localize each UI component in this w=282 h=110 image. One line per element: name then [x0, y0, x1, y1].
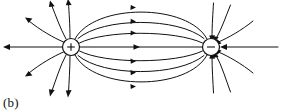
- figure-panel: (b): [0, 0, 282, 110]
- arrowhead-lower-1: [131, 59, 137, 64]
- field-line-pos-lower-left-steep: [52, 55, 67, 92]
- arrowhead-pos-upper-left-steep: [49, 1, 55, 8]
- arrowhead-upper-3: [130, 5, 136, 10]
- negative-charge-marker: [203, 39, 220, 56]
- field-line-neg-lower-right-diagonal: [219, 52, 254, 73]
- field-line-neg-upper-right-diagonal: [219, 21, 254, 42]
- field-line-upper-3: [75, 12, 207, 39]
- arrowhead-pos-lower-vertical: [66, 90, 72, 98]
- field-line-neg-upper-vertical: [212, 3, 214, 38]
- field-line-axis-group: [80, 44, 202, 50]
- arrowhead-lower-3: [130, 84, 136, 89]
- field-line-neg-upper-right-steep: [216, 5, 231, 39]
- arrowhead-pos-lower-left-steep: [49, 89, 55, 96]
- field-line-pos-upper-left-diagonal: [29, 21, 64, 42]
- dipole-field-diagram: [0, 0, 282, 110]
- field-line-neg-lower-vertical: [212, 56, 214, 93]
- arrowhead-pos-left-horizontal: [3, 44, 10, 50]
- panel-label: (b): [3, 96, 19, 109]
- field-line-lower-3: [75, 55, 207, 82]
- field-line-upper-2: [78, 22, 204, 38]
- field-lines-lower-bundle: [75, 51, 207, 89]
- arrowhead-axis-center: [134, 44, 141, 50]
- field-lines-positive-outward: [3, 0, 72, 98]
- arrowhead-pos-upper-vertical: [66, 0, 72, 5]
- arrowhead-neg-right-horizontal: [220, 44, 227, 50]
- field-lines-upper-bundle: [75, 5, 207, 43]
- arrowhead-lower-2: [130, 70, 136, 75]
- field-line-pos-lower-left-diagonal: [29, 52, 64, 73]
- field-line-upper-1: [80, 33, 203, 43]
- arrowhead-upper-1: [131, 30, 137, 35]
- field-line-lower-2: [78, 56, 204, 72]
- field-line-pos-upper-left-steep: [52, 5, 67, 39]
- field-line-neg-lower-right-steep: [216, 55, 231, 92]
- field-line-pos-lower-vertical: [69, 56, 71, 93]
- field-line-lower-1: [80, 51, 203, 61]
- arrowhead-upper-2: [130, 19, 136, 24]
- field-line-pos-upper-vertical: [69, 3, 71, 38]
- positive-charge-marker: [63, 39, 80, 56]
